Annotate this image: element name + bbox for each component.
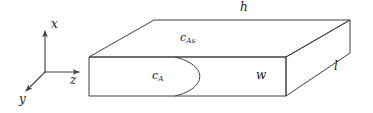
surface-concentration-label: cAs xyxy=(180,32,195,43)
axis-label-y: y xyxy=(19,93,26,105)
slab-solid-outline xyxy=(89,20,350,96)
dimension-label-l: l xyxy=(334,60,338,72)
diffusion-slab-figure: x z y h l w cAs cA xyxy=(0,0,373,113)
slab-top-face xyxy=(89,20,350,57)
dimension-label-w: w xyxy=(256,69,266,81)
bulk-concentration-subscript: A xyxy=(158,74,163,83)
axis-y-line xyxy=(26,72,45,91)
dimension-label-h: h xyxy=(240,1,248,13)
axis-label-z: z xyxy=(70,74,76,86)
axis-label-x: x xyxy=(51,18,58,30)
concentration-profile-curve xyxy=(175,57,200,96)
surface-concentration-subscript: As xyxy=(186,36,195,45)
slab-right-face xyxy=(286,20,350,96)
bulk-concentration-label: cA xyxy=(152,70,163,81)
